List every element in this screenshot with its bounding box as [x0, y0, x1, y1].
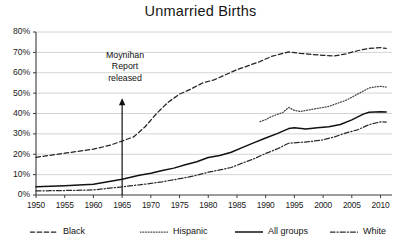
legend-swatch-solid: [235, 227, 263, 236]
chart-legend: BlackHispanicAll groupsWhite: [0, 224, 401, 244]
legend-item-white[interactable]: White: [330, 226, 386, 236]
y-axis-label: 40%: [0, 108, 30, 118]
legend-swatch-dashed: [30, 227, 58, 236]
x-axis-label: 2010: [364, 200, 398, 210]
annotation-arrow-head: [119, 98, 125, 105]
plot-area: [0, 28, 401, 200]
y-axis-label: 20%: [0, 149, 30, 159]
legend-item-black[interactable]: Black: [30, 226, 85, 236]
annotation-moynihan: Moynihan Report released: [84, 50, 166, 84]
annotation-line-1: Moynihan: [84, 50, 166, 61]
legend-label: Hispanic: [173, 226, 208, 236]
y-axis-label: 70%: [0, 47, 30, 57]
series-line-hispanic: [260, 86, 386, 121]
chart-container: Unmarried Births Moynihan Report release…: [0, 0, 401, 251]
legend-label: All groups: [268, 226, 308, 236]
annotation-line-2: Report: [84, 61, 166, 72]
legend-swatch-dashdot: [330, 227, 358, 236]
y-axis-label: 10%: [0, 169, 30, 179]
legend-label: Black: [63, 226, 85, 236]
y-axis-label: 60%: [0, 67, 30, 77]
legend-item-all-groups[interactable]: All groups: [235, 226, 308, 236]
legend-swatch-dotted: [140, 227, 168, 236]
annotation-line-3: released: [84, 73, 166, 84]
y-axis-label: 50%: [0, 88, 30, 98]
plot-svg: [0, 28, 401, 200]
legend-item-hispanic[interactable]: Hispanic: [140, 226, 208, 236]
y-axis-label: 0%: [0, 189, 30, 199]
y-axis-label: 80%: [0, 26, 30, 36]
legend-label: White: [363, 226, 386, 236]
chart-title: Unmarried Births: [0, 3, 401, 19]
y-axis-label: 30%: [0, 128, 30, 138]
